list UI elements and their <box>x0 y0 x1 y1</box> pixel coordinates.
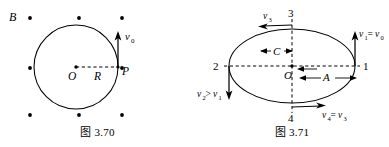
field-dot <box>120 16 124 20</box>
velocity-1-other-subscript: 0 <box>381 34 384 41</box>
velocity-3-subscript: 3 <box>269 16 272 23</box>
field-dot <box>77 16 81 20</box>
velocity-2-other-base: v <box>213 89 218 99</box>
point-label-1: 1 <box>363 60 369 72</box>
velocity-label-subscript: 0 <box>131 37 135 45</box>
velocity-label-base: v <box>125 31 130 42</box>
velocity-1-base: v <box>359 29 364 39</box>
center-inward-arrow <box>297 66 317 71</box>
velocity-2-base: v <box>197 89 202 99</box>
radius-label-r: R <box>93 70 101 82</box>
velocity-label-at-point-2: v 2 > v 1 <box>197 89 222 101</box>
figure-3-71-caption: 图 3.71 <box>195 123 389 139</box>
semi-axis-c-label: C <box>273 45 281 57</box>
velocity-2-relation: > <box>206 89 211 99</box>
velocity-label-at-point-4: v 4 = v 3 <box>322 110 347 122</box>
magnetic-field-label: B <box>9 10 17 24</box>
semi-axis-a-arrow-left <box>299 75 306 80</box>
point-label-p: P <box>121 65 129 77</box>
velocity-4-other-base: v <box>338 110 343 120</box>
velocity-4-base: v <box>322 110 327 120</box>
velocity-1-relation: = <box>368 29 373 39</box>
center-inward-arrow-head <box>297 66 304 71</box>
velocity-label-at-point-1: v 1 = v 0 <box>359 29 384 41</box>
velocity-vector-at-point-2 <box>226 66 233 100</box>
point-label-3: 3 <box>288 7 294 19</box>
velocity-4-shaft <box>292 106 321 107</box>
figure-3-70-drawing: B O R P v 0 <box>0 0 195 125</box>
figure-sheet: B O R P v 0 图 3.70 <box>0 0 389 147</box>
point-label-2: 2 <box>213 60 219 72</box>
semi-axis-a-dimension: A <box>299 70 357 83</box>
velocity-label-at-point-3: v 3 <box>263 11 272 23</box>
velocity-vector-v0 <box>115 31 122 67</box>
field-dot <box>120 113 124 117</box>
velocity-4-relation: = <box>331 110 336 120</box>
ellipse-center-label: O <box>284 69 292 81</box>
velocity-3-arrowhead <box>258 24 268 30</box>
velocity-vector-at-point-1 <box>352 31 359 66</box>
field-dot <box>28 16 32 20</box>
semi-axis-a-label: A <box>322 71 330 83</box>
velocity-1-other-base: v <box>375 29 380 39</box>
velocity-label-v0: v 0 <box>125 31 135 45</box>
center-label-o: O <box>68 70 77 82</box>
semi-axis-c-dimension: C <box>260 44 293 57</box>
figure-3-71-drawing: C A O 1 2 3 4 <box>195 0 389 125</box>
field-dot <box>28 113 32 117</box>
velocity-2-other-subscript: 1 <box>219 94 222 101</box>
velocity-3-shaft <box>263 25 292 26</box>
semi-axis-a-arrow-right <box>350 75 357 80</box>
semi-axis-c-arrow-left <box>260 48 267 53</box>
figure-3-70: B O R P v 0 图 3.70 <box>0 0 195 147</box>
field-dot <box>77 113 81 117</box>
figure-3-71: C A O 1 2 3 4 <box>195 0 389 147</box>
velocity-4-other-subscript: 3 <box>344 115 347 122</box>
velocity-3-base: v <box>263 11 268 21</box>
field-dot <box>28 66 32 70</box>
velocity-4-arrowhead <box>316 102 326 108</box>
figure-3-70-caption: 图 3.70 <box>0 123 195 139</box>
